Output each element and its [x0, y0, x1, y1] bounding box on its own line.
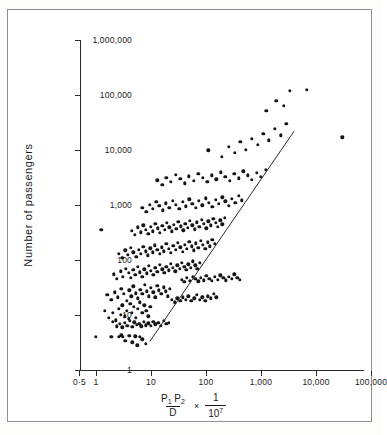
data-point: [214, 178, 217, 181]
data-point: [156, 248, 159, 251]
data-point: [142, 304, 145, 307]
data-point: [174, 248, 177, 251]
data-point: [255, 171, 258, 174]
data-point: [239, 140, 242, 143]
p2-subscript: 2: [181, 398, 185, 405]
data-point: [143, 283, 146, 286]
data-point: [204, 197, 207, 200]
data-point: [191, 202, 194, 205]
data-point: [177, 220, 180, 223]
data-point: [184, 222, 187, 225]
data-point: [162, 249, 165, 252]
data-point: [160, 292, 163, 295]
y-tick-label: 1,000: [110, 200, 132, 210]
data-point: [244, 148, 247, 151]
data-point: [147, 232, 150, 235]
data-point: [201, 204, 204, 207]
data-point: [153, 244, 156, 247]
data-point: [219, 171, 222, 174]
data-point: [179, 177, 182, 180]
data-point: [237, 194, 240, 197]
data-point: [151, 251, 154, 254]
data-point: [202, 222, 205, 225]
data-point: [201, 176, 204, 179]
data-point: [138, 270, 141, 273]
data-point: [214, 221, 217, 224]
data-point: [132, 268, 135, 271]
data-point: [234, 201, 237, 204]
data-point: [158, 263, 161, 266]
data-point: [190, 245, 193, 248]
data-point: [181, 229, 184, 232]
data-point: [215, 296, 218, 299]
data-point: [141, 338, 144, 341]
data-point: [135, 344, 138, 347]
data-point: [136, 265, 139, 268]
data-point: [256, 143, 259, 146]
data-point: [136, 307, 139, 310]
data-point: [208, 245, 211, 248]
data-point: [192, 179, 195, 182]
data-point: [202, 278, 205, 281]
x-tick-label: 10,000: [302, 377, 329, 387]
data-point: [158, 231, 161, 234]
data-point: [221, 223, 224, 226]
data-point: [187, 198, 190, 201]
data-point: [233, 151, 236, 154]
data-point: [158, 252, 161, 255]
data-point: [165, 242, 168, 245]
data-point: [288, 89, 291, 92]
data-point: [152, 273, 155, 276]
data-point: [200, 218, 203, 221]
data-point: [149, 286, 152, 289]
data-point: [210, 173, 213, 176]
data-point: [143, 268, 146, 271]
data-point: [151, 207, 154, 210]
data-point: [216, 278, 219, 281]
data-point: [241, 170, 244, 173]
ten-base: 10: [208, 408, 219, 419]
data-point: [135, 255, 138, 258]
data-point: [282, 104, 285, 107]
data-point: [147, 294, 150, 297]
ten-exponent: 7: [219, 407, 223, 414]
data-point: [214, 198, 217, 201]
data-point: [217, 202, 220, 205]
x-tick: [151, 371, 152, 376]
data-point: [196, 267, 199, 270]
data-point: [176, 241, 179, 244]
data-point: [141, 206, 144, 209]
data-point: [181, 200, 184, 203]
data-point: [144, 249, 147, 252]
data-point: [172, 244, 175, 247]
x-tick-label: 100,000: [355, 377, 387, 387]
x-tick-label: 0·5: [73, 377, 86, 387]
x-tick-label: 100: [199, 377, 214, 387]
data-point: [145, 309, 148, 312]
x-tick-label: 1: [94, 377, 99, 387]
data-point: [259, 175, 262, 178]
data-point: [136, 226, 139, 229]
data-point: [142, 245, 145, 248]
x-tick: [371, 371, 372, 376]
second-fraction: 1 107: [205, 393, 226, 419]
data-point: [149, 324, 152, 327]
data-point: [181, 250, 184, 253]
data-point: [131, 341, 134, 344]
data-point: [139, 288, 142, 291]
x-tick-label: 1,000: [250, 377, 272, 387]
data-point: [168, 226, 171, 229]
data-point: [201, 243, 204, 246]
y-axis-title: Number of passengers: [22, 143, 34, 266]
data-point: [158, 204, 161, 207]
data-point: [156, 179, 159, 182]
data-point: [216, 225, 219, 228]
data-point: [174, 203, 177, 206]
data-point: [137, 248, 140, 251]
y-tick-label: 100: [117, 255, 132, 265]
data-point: [192, 297, 195, 300]
data-point: [130, 229, 133, 232]
data-point: [147, 264, 150, 267]
data-point: [285, 122, 288, 125]
